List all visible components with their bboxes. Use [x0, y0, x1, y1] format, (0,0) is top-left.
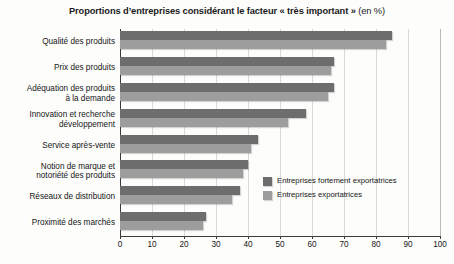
bar — [120, 31, 392, 40]
x-tick-label: 50 — [275, 240, 284, 249]
x-tick-label: 20 — [179, 240, 188, 249]
chart-legend: Entreprises fortement exportatricesEntre… — [263, 176, 397, 204]
category-label: Qualité des produits — [0, 37, 115, 47]
bar — [120, 212, 206, 221]
tick-mark-30 — [216, 236, 217, 239]
bar — [120, 169, 243, 178]
tick-mark-70 — [344, 236, 345, 239]
bar — [120, 160, 248, 169]
tick-mark-50 — [280, 236, 281, 239]
x-tick-label: 100 — [433, 240, 447, 249]
bar-group — [120, 135, 440, 153]
bar — [120, 195, 232, 204]
legend-label: Entreprises exportatrices — [277, 190, 362, 200]
category-label: Proximité des marchés — [0, 218, 115, 228]
x-axis-ticks: 0102030405060708090100 — [120, 236, 440, 254]
bar — [120, 66, 331, 75]
chart-title-main: Proportions d’entreprises considérant le… — [69, 6, 356, 16]
bar — [120, 57, 334, 66]
bar-group — [120, 57, 440, 75]
bar-series-group — [120, 29, 440, 236]
x-tick-label: 30 — [211, 240, 220, 249]
category-label: Notion de marque et notoriété des produi… — [0, 162, 115, 181]
tick-mark-100 — [440, 236, 441, 239]
tick-mark-90 — [408, 236, 409, 239]
x-tick-label: 40 — [243, 240, 252, 249]
legend-item[interactable]: Entreprises exportatrices — [263, 190, 397, 200]
bar-group — [120, 31, 440, 49]
bar — [120, 83, 334, 92]
category-label: Adéquation des produits à la demande — [0, 84, 115, 103]
bar — [120, 186, 240, 195]
gridline-100 — [440, 29, 441, 236]
bar — [120, 118, 288, 127]
x-tick-label: 0 — [118, 240, 123, 249]
tick-mark-60 — [312, 236, 313, 239]
category-label: Innovation et recherche développement — [0, 110, 115, 129]
category-label: Prix des produits — [0, 63, 115, 73]
bar — [120, 40, 386, 49]
chart-title: Proportions d’entreprises considérant le… — [0, 6, 454, 16]
bar — [120, 109, 306, 118]
tick-mark-40 — [248, 236, 249, 239]
bar-group — [120, 109, 440, 127]
bar-group — [120, 83, 440, 101]
x-tick-label: 10 — [147, 240, 156, 249]
bar — [120, 144, 251, 153]
tick-mark-20 — [184, 236, 185, 239]
bar — [120, 221, 203, 230]
x-tick-label: 80 — [371, 240, 380, 249]
plot-area — [120, 29, 440, 236]
x-tick-label: 60 — [307, 240, 316, 249]
legend-swatch-icon — [263, 191, 272, 200]
x-tick-label: 90 — [403, 240, 412, 249]
tick-mark-80 — [376, 236, 377, 239]
tick-mark-0 — [120, 236, 121, 239]
category-label: Réseaux de distribution — [0, 192, 115, 202]
bar — [120, 92, 328, 101]
x-tick-label: 70 — [339, 240, 348, 249]
legend-label: Entreprises fortement exportatrices — [277, 176, 397, 186]
tick-mark-10 — [152, 236, 153, 239]
category-axis-labels: Qualité des produitsPrix des produitsAdé… — [0, 29, 115, 236]
bar — [120, 135, 258, 144]
bar-chart: Proportions d’entreprises considérant le… — [0, 0, 454, 264]
legend-item[interactable]: Entreprises fortement exportatrices — [263, 176, 397, 186]
chart-title-unit: (en %) — [356, 6, 385, 16]
category-label: Service après-vente — [0, 141, 115, 151]
bar-group — [120, 212, 440, 230]
legend-swatch-icon — [263, 177, 272, 186]
